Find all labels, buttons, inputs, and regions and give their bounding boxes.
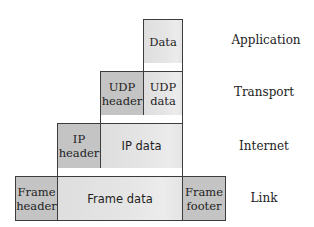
- udp-header-label: UDP header: [102, 80, 143, 108]
- udp-data-block: UDP data: [143, 71, 183, 116]
- application-data-label: Data: [149, 35, 177, 49]
- frame-header-block: Frame header: [15, 176, 58, 221]
- frame-footer-label: Frame footer: [185, 185, 223, 213]
- layer-label-application: Application: [231, 33, 300, 47]
- application-data-block: Data: [143, 19, 183, 64]
- udp-header-label-line2: header: [102, 94, 143, 108]
- ip-data-label: IP data: [122, 139, 162, 153]
- frame-header-label: Frame header: [16, 185, 57, 213]
- frame-header-label-line1: Frame: [17, 185, 55, 199]
- ip-header-label-line1: IP: [73, 132, 85, 146]
- udp-header-label-line1: UDP: [109, 80, 136, 94]
- ip-header-block: IP header: [57, 123, 101, 169]
- udp-data-label-line2: data: [150, 94, 176, 108]
- udp-data-label: UDP data: [150, 80, 177, 108]
- ip-header-label: IP header: [59, 132, 100, 160]
- ip-header-label-line2: header: [59, 146, 100, 160]
- udp-header-block: UDP header: [100, 71, 144, 116]
- udp-data-label-line1: UDP: [150, 80, 177, 94]
- frame-header-label-line2: header: [16, 199, 57, 213]
- frame-data-block: Frame data: [57, 176, 183, 221]
- layer-label-transport: Transport: [234, 85, 294, 99]
- ip-data-block: IP data: [100, 123, 183, 169]
- frame-footer-label-line2: footer: [186, 199, 221, 213]
- frame-data-label: Frame data: [87, 192, 152, 206]
- frame-footer-block: Frame footer: [182, 176, 226, 221]
- layer-label-link: Link: [251, 191, 278, 205]
- layer-label-internet: Internet: [239, 139, 289, 153]
- frame-footer-label-line1: Frame: [185, 185, 223, 199]
